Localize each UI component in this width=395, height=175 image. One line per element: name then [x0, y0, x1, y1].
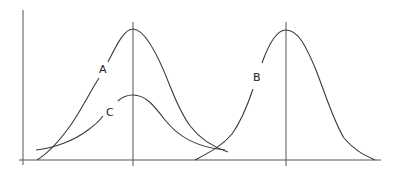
curve-c-upper — [118, 95, 225, 150]
label-c: C — [106, 106, 114, 119]
curve-c-left — [36, 116, 103, 150]
curve-a-left-lower — [37, 78, 99, 160]
curve-b-upper — [262, 30, 375, 160]
distribution-diagram: A C B — [0, 0, 395, 175]
label-a: A — [99, 63, 107, 76]
label-b: B — [253, 71, 261, 84]
curve-a-upper — [108, 29, 228, 152]
